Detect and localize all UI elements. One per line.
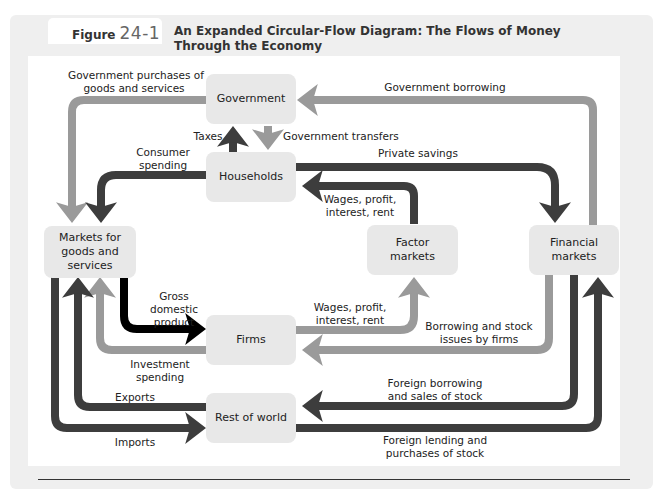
label-borrowing-firms: Borrowing and stockissues by firms [420,320,538,346]
label-exports: Exports [110,391,160,404]
bottom-rule [38,479,630,480]
label-private-savings: Private savings [368,147,468,160]
label-gov-borrowing: Government borrowing [380,81,510,94]
label-gdp: Grossdomesticproduct [140,290,208,329]
node-markets-goods-services: Markets forgoods andservices [44,226,136,278]
label-taxes: Taxes [190,130,226,143]
label-wages-factor: Wages, profit,interest, rent [310,301,390,327]
node-financial-markets: Financialmarkets [529,225,619,275]
consumer-spending-arrow [101,175,206,215]
label-imports: Imports [110,436,160,449]
node-factor-markets: Factormarkets [367,225,458,275]
label-foreign-borrowing: Foreign borrowingand sales of stock [380,377,490,403]
node-government: Government [206,74,296,124]
node-rest-of-world: Rest of world [206,393,296,443]
label-investment-spending: Investmentspending [120,358,200,384]
label-gov-transfers: Government transfers [283,130,393,143]
label-consumer-spending: Consumerspending [128,146,198,172]
label-gov-purchases: Government purchases ofgoods and service… [68,69,200,95]
node-households: Households [206,152,296,202]
node-firms: Firms [206,315,296,365]
label-foreign-lending: Foreign lending andpurchases of stock [380,434,490,460]
label-wages-households: Wages, profit,interest, rent [320,193,400,219]
